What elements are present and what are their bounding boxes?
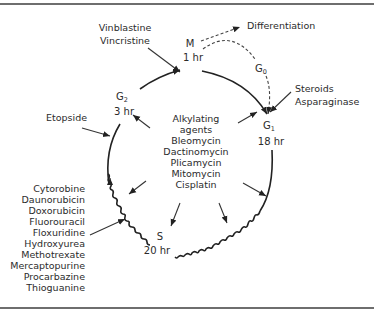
- drug-label: Doxorubicin: [29, 205, 85, 216]
- dashed-arrow-g0-g1: [266, 76, 270, 114]
- arrow-center-to-s-bottom-left: [171, 203, 180, 226]
- drug-label: Mercaptopurine: [10, 260, 85, 271]
- arrow-steroids-to-g1: [270, 92, 291, 112]
- g2-phase-drug-label: Etopside: [46, 112, 87, 123]
- cell-cycle-diagram: M 1 hr G0 G1 18 hr G2 3 hr S 20 hr Diffe…: [0, 0, 374, 311]
- phase-m-duration: 1 hr: [183, 52, 204, 63]
- arrow-center-to-m-g1: [238, 112, 257, 123]
- drug-label: Asparaginase: [295, 96, 359, 107]
- phase-g1-duration: 18 hr: [258, 136, 285, 147]
- drug-label: Mitomycin: [171, 168, 220, 179]
- cycle-arc-m-g1: [202, 71, 267, 114]
- cycle-arc-g1-s-wavy: [175, 211, 260, 258]
- arrow-etopside-to-g2: [82, 128, 110, 136]
- phase-g1-label: G1: [263, 120, 275, 133]
- arrow-s-drugs-to-s: [90, 219, 125, 235]
- drug-label: Vinblastine: [99, 22, 152, 33]
- drug-label: Floxuridine: [33, 227, 86, 238]
- cycle-arc-s-g2-wavy: [108, 174, 150, 245]
- s-phase-drug-list: Cytorobine Daunorubicin Doxorubicin Fluo…: [10, 183, 85, 293]
- drug-label: Daunorubicin: [22, 194, 85, 205]
- m-phase-drug-list: Vinblastine Vincristine: [99, 22, 152, 46]
- dashed-arc-m-g0: [203, 41, 255, 59]
- phase-g2-label: G2: [116, 91, 128, 104]
- drug-label: Fluorouracil: [29, 216, 85, 227]
- phase-g0-label: G0: [255, 63, 267, 76]
- drug-label: Steroids: [295, 83, 334, 94]
- arrow-vinca-to-m: [148, 48, 180, 72]
- drug-label: Cytorobine: [33, 183, 85, 194]
- drug-label: Methotrexate: [21, 249, 85, 260]
- drug-label: Cisplatin: [175, 179, 216, 190]
- drug-label: Alkylating: [173, 113, 220, 124]
- drug-label: Procarbazine: [24, 271, 86, 282]
- drug-label: Thioguanine: [25, 282, 85, 293]
- differentiation-label: Differentiation: [247, 20, 315, 31]
- cycle-arc-g2-m: [140, 70, 180, 89]
- phase-s-duration: 20 hr: [144, 245, 171, 256]
- cycle-arc-g1-s-smooth: [260, 150, 272, 211]
- arrow-center-to-g2: [133, 115, 150, 128]
- g1-phase-drug-list: Steroids Asparaginase: [295, 83, 359, 107]
- nonspecific-drug-list: Alkylating agents Bleomycin Dactinomycin…: [163, 113, 228, 190]
- arrow-center-to-s-left: [129, 181, 146, 194]
- phase-s-label: S: [157, 231, 163, 242]
- drug-label: Plicamycin: [171, 157, 222, 168]
- phase-m-label: M: [186, 38, 195, 49]
- drug-label: Vincristine: [100, 35, 150, 46]
- drug-label: Bleomycin: [171, 135, 221, 146]
- dashed-arrow-differentiation: [201, 27, 240, 41]
- drug-label: Dactinomycin: [163, 146, 228, 157]
- drug-label: agents: [180, 124, 212, 135]
- drug-label: Hydroxyurea: [24, 238, 85, 249]
- arrow-center-to-g1-s: [243, 183, 266, 196]
- phase-g2-duration: 3 hr: [114, 106, 135, 117]
- arrow-center-to-s-bottom-right: [219, 203, 227, 223]
